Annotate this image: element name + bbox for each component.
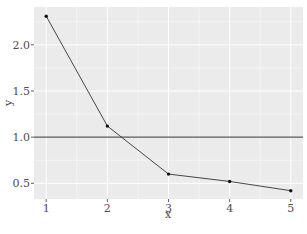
line-chart: 12345 0.51.01.52.0 x y [0,0,307,234]
y-tick-label: 2.0 [13,39,31,52]
y-axis-ticks: 0.51.01.52.0 [13,39,35,190]
x-tick-label: 2 [104,202,111,215]
x-tick-label: 1 [43,202,50,215]
data-point [45,15,48,18]
y-axis-label: y [2,99,15,107]
y-tick-label: 0.5 [13,177,31,190]
data-point [167,172,170,175]
y-tick-label: 1.0 [13,131,31,144]
x-tick-label: 4 [226,202,233,215]
data-point [106,124,109,127]
data-point [228,180,231,183]
x-axis-label: x [165,208,172,221]
x-tick-label: 5 [287,202,294,215]
data-point [289,189,292,192]
y-tick-label: 1.5 [13,85,31,98]
